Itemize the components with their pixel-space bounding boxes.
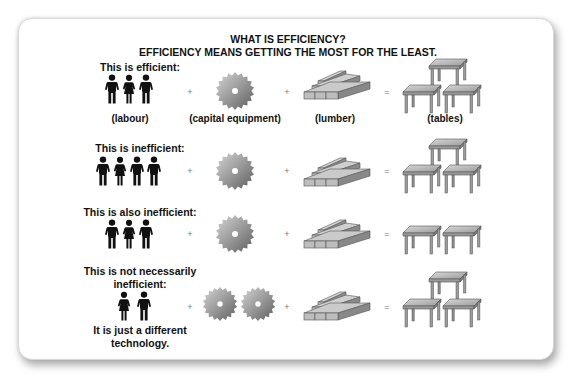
table-icon <box>442 164 482 194</box>
person-man-icon <box>130 156 144 186</box>
saw-blade-icon <box>215 151 255 191</box>
row-4-label-line1: This is not necessarily <box>65 265 215 278</box>
plus-sign: + <box>282 302 292 312</box>
saw-blade-icon <box>240 286 276 322</box>
plus-sign: + <box>282 229 292 239</box>
saw-blade-icon <box>215 214 255 254</box>
plus-sign: + <box>282 87 292 97</box>
row-1-labour <box>105 74 153 104</box>
row-4-labour <box>117 291 151 321</box>
person-woman-icon <box>117 291 131 321</box>
person-woman-icon <box>122 219 136 249</box>
lumber-stack-icon <box>302 291 372 325</box>
plus-sign: + <box>282 166 292 176</box>
person-man-icon <box>139 74 153 104</box>
table-icon <box>402 225 442 255</box>
person-man-icon <box>139 219 153 249</box>
equals-sign: = <box>382 302 392 312</box>
plus-sign: + <box>185 87 195 97</box>
saw-blade-icon <box>202 286 238 322</box>
plus-sign: + <box>185 229 195 239</box>
person-woman-icon <box>122 74 136 104</box>
saw-blade-icon <box>215 71 255 111</box>
row-3-labour <box>105 219 153 249</box>
table-icon <box>402 164 442 194</box>
row-3-label: This is also inefficient: <box>65 206 215 219</box>
diagram-title: WHAT IS EFFICIENCY? <box>0 33 576 45</box>
plus-sign: + <box>185 302 195 312</box>
table-icon <box>442 84 482 114</box>
equals-sign: = <box>382 229 392 239</box>
person-man-icon <box>96 156 110 186</box>
row-4-note: It is just a different technology. <box>65 324 215 349</box>
row-4-label-line2: inefficient: <box>65 278 215 291</box>
lumber-stack-icon <box>302 70 372 104</box>
person-man-icon <box>105 219 119 249</box>
person-man-icon <box>105 74 119 104</box>
row-2-label: This is inefficient: <box>65 142 215 155</box>
equals-sign: = <box>382 166 392 176</box>
person-woman-icon <box>113 156 127 186</box>
person-man-icon <box>137 291 151 321</box>
diagram-subtitle: EFFICIENCY MEANS GETTING THE MOST FOR TH… <box>0 46 576 58</box>
person-man-icon <box>147 156 161 186</box>
row-1-label: This is efficient: <box>65 61 215 74</box>
table-icon <box>402 298 442 328</box>
caption-tables: (tables) <box>415 113 475 124</box>
row-4-note-line2: technology. <box>65 337 215 350</box>
row-2-labour <box>96 156 161 186</box>
lumber-stack-icon <box>302 219 372 253</box>
row-4-label: This is not necessarily inefficient: <box>65 265 215 290</box>
table-icon <box>442 225 482 255</box>
row-4-note-line1: It is just a different <box>65 324 215 337</box>
lumber-stack-icon <box>302 157 372 191</box>
table-icon <box>428 271 468 301</box>
plus-sign: + <box>185 166 195 176</box>
table-icon <box>442 298 482 328</box>
caption-labour: (labour) <box>100 113 160 124</box>
caption-lumber: (lumber) <box>305 113 365 124</box>
caption-capital: (capital equipment) <box>180 113 290 124</box>
equals-sign: = <box>382 87 392 97</box>
table-icon <box>402 84 442 114</box>
